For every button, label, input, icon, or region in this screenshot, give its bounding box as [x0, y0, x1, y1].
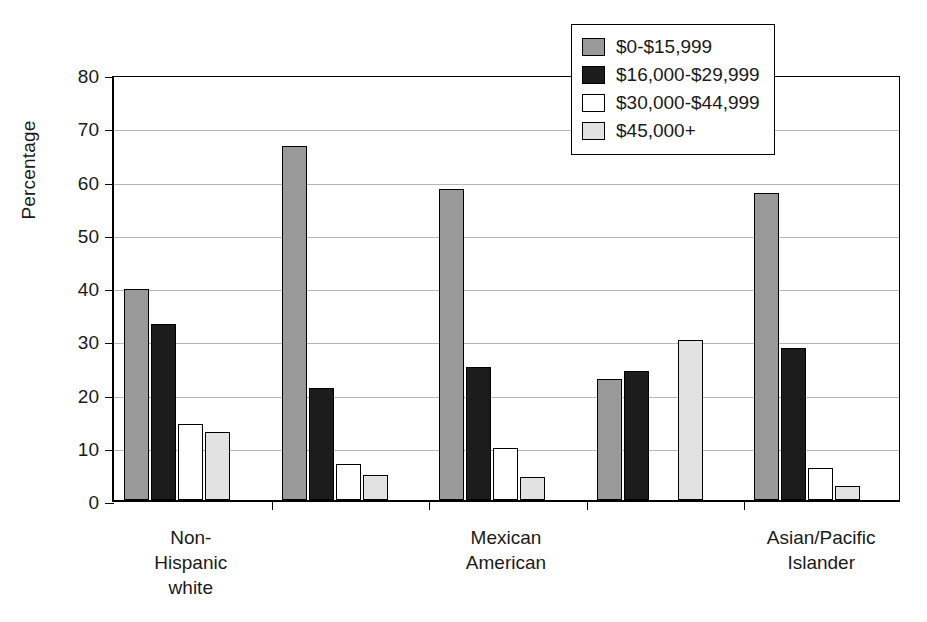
- y-axis-tick-label: 50: [78, 226, 99, 248]
- y-axis-tick-label: 10: [78, 439, 99, 461]
- y-axis-tick: 60: [105, 184, 114, 185]
- x-axis-tick: [587, 500, 588, 510]
- bar-group: [439, 77, 587, 500]
- legend-item-label: $45,000+: [616, 120, 696, 142]
- plot-area: 01020304050607080: [112, 76, 900, 502]
- x-axis-category-label: Asian/Pacific Islander: [722, 525, 920, 575]
- legend-item[interactable]: $30,000-$44,999: [582, 89, 760, 117]
- y-axis-tick: 10: [105, 450, 114, 451]
- y-axis-tick-label: 30: [78, 332, 99, 354]
- bar: [205, 432, 230, 500]
- bar-group: [124, 77, 272, 500]
- legend-swatch: [582, 94, 605, 112]
- legend-swatch: [582, 122, 605, 140]
- y-axis-tick: 70: [105, 130, 114, 131]
- y-axis-tick-label: 0: [88, 492, 99, 514]
- bar: [336, 464, 361, 500]
- bar: [363, 475, 388, 500]
- y-axis-tick-label: 80: [78, 66, 99, 88]
- x-axis-tick: [429, 500, 430, 510]
- bar: [678, 340, 703, 500]
- bar: [597, 379, 622, 500]
- y-axis-tick: 20: [105, 397, 114, 398]
- y-axis-tick: 50: [105, 237, 114, 238]
- y-axis-tick-label: 40: [78, 279, 99, 301]
- bar: [781, 348, 806, 500]
- bar: [624, 371, 649, 500]
- legend-swatch: [582, 38, 605, 56]
- bar: [124, 289, 149, 500]
- bar: [520, 477, 545, 500]
- bar: [282, 146, 307, 500]
- bar: [466, 367, 491, 500]
- bar: [151, 324, 176, 500]
- bar: [754, 193, 779, 500]
- bar-group: [754, 77, 902, 500]
- chart-legend: $0-$15,999$16,000-$29,999$30,000-$44,999…: [571, 24, 775, 155]
- bar: [808, 468, 833, 500]
- y-axis-tick-label: 70: [78, 119, 99, 141]
- legend-item[interactable]: $16,000-$29,999: [582, 61, 760, 89]
- legend-item-label: $16,000-$29,999: [616, 64, 760, 86]
- legend-item[interactable]: $0-$15,999: [582, 33, 760, 61]
- legend-item[interactable]: $45,000+: [582, 117, 760, 145]
- bar: [493, 448, 518, 500]
- y-axis-tick: 0: [105, 503, 114, 504]
- chart-figure: Percentage 01020304050607080 Non- Hispan…: [0, 0, 927, 622]
- y-axis-tick: 80: [105, 77, 114, 78]
- x-axis-category-label: Mexican American: [407, 525, 605, 575]
- y-axis-tick-label: 20: [78, 386, 99, 408]
- y-axis-title: Percentage: [18, 70, 40, 270]
- bar: [178, 424, 203, 500]
- x-axis-tick: [744, 500, 745, 510]
- x-axis-category-label: Non- Hispanic white: [92, 525, 290, 600]
- legend-swatch: [582, 66, 605, 84]
- y-axis-tick: 30: [105, 343, 114, 344]
- legend-item-label: $30,000-$44,999: [616, 92, 760, 114]
- bar-group: [282, 77, 430, 500]
- legend-item-label: $0-$15,999: [616, 36, 712, 58]
- bar: [439, 189, 464, 501]
- y-axis-tick-label: 60: [78, 173, 99, 195]
- y-axis-tick: 40: [105, 290, 114, 291]
- bar: [309, 388, 334, 500]
- x-axis-tick: [272, 500, 273, 510]
- bar: [835, 486, 860, 500]
